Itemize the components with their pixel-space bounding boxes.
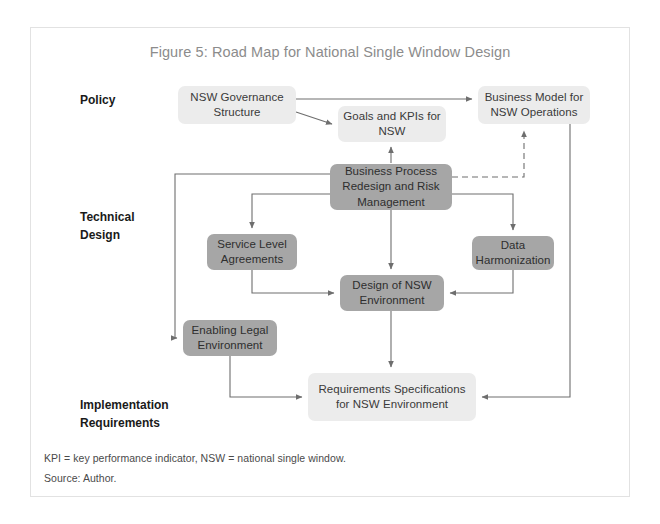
node-data-harmonization[interactable]: Data Harmonization <box>472 236 554 270</box>
node-goals-and-kpis[interactable]: Goals and KPIs for NSW <box>338 106 446 142</box>
figure-canvas: Figure 5: Road Map for National Single W… <box>0 0 660 524</box>
node-label: Design of NSW Environment <box>345 278 439 309</box>
node-design-of-nsw-environment[interactable]: Design of NSW Environment <box>340 275 444 311</box>
node-label: Data Harmonization <box>476 238 551 269</box>
node-label: NSW Governance Structure <box>183 90 291 121</box>
node-label: Service Level Agreements <box>212 237 292 268</box>
row-label-technical-design: Technical Design <box>80 192 134 244</box>
row-label-policy: Policy <box>80 92 115 109</box>
node-label: Business Model for NSW Operations <box>483 90 585 121</box>
node-nsw-governance-structure[interactable]: NSW Governance Structure <box>178 86 296 124</box>
node-requirements-specifications[interactable]: Requirements Specifications for NSW Envi… <box>308 373 476 421</box>
row-label-implementation-requirements: Implementation Requirements <box>80 380 169 432</box>
node-label: Business Process Redesign and Risk Manag… <box>335 164 447 210</box>
row-label-implementation-requirements-text: Implementation Requirements <box>80 398 169 429</box>
node-label: Enabling Legal Environment <box>188 323 272 354</box>
row-label-technical-design-text: Technical Design <box>80 210 134 241</box>
node-business-model-nsw-operations[interactable]: Business Model for NSW Operations <box>478 86 590 124</box>
footnote-source: Source: Author. <box>44 472 117 484</box>
footnote-abbreviations: KPI = key performance indicator, NSW = n… <box>44 452 346 464</box>
figure-title: Figure 5: Road Map for National Single W… <box>30 44 630 60</box>
node-label: Goals and KPIs for NSW <box>343 109 441 140</box>
node-label: Requirements Specifications for NSW Envi… <box>313 382 471 413</box>
node-enabling-legal-environment[interactable]: Enabling Legal Environment <box>183 320 277 356</box>
node-service-level-agreements[interactable]: Service Level Agreements <box>207 234 297 270</box>
row-label-policy-text: Policy <box>80 93 115 107</box>
node-business-process-redesign[interactable]: Business Process Redesign and Risk Manag… <box>330 164 452 210</box>
